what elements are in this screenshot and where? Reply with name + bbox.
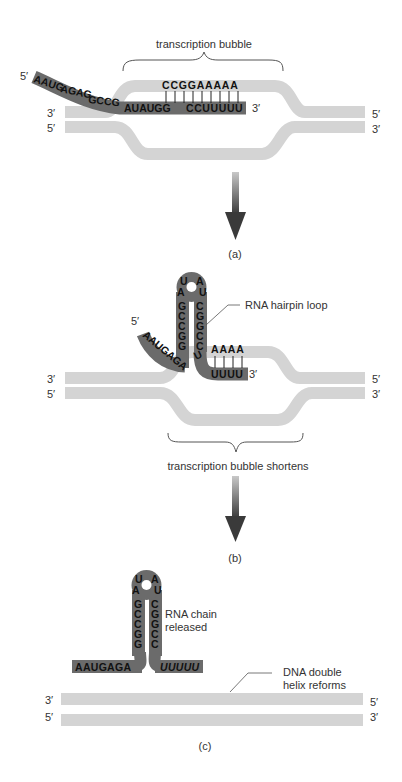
down-arrow-icon — [225, 172, 246, 240]
svg-text:G: G — [134, 638, 142, 650]
rna-3-bases: UUUU — [211, 368, 243, 380]
helix-label-line1: DNA double — [283, 666, 342, 678]
dna-coding-strand — [65, 127, 365, 154]
dna-template-strand — [61, 693, 363, 705]
loop-hole — [187, 282, 197, 292]
loop-hole — [142, 580, 152, 590]
dna-right-top-label: 5′ — [370, 696, 378, 708]
svg-text:G: G — [178, 340, 186, 352]
dna-left-bottom-label: 5′ — [47, 388, 55, 400]
transcription-termination-diagram: transcription bubble AAUG AGAG GCCG AUAU… — [0, 0, 402, 782]
rna-3-tail: UUUUU — [160, 661, 200, 673]
svg-text:A: A — [132, 584, 140, 596]
svg-text:C: C — [151, 638, 159, 650]
dna-right-top-label: 5′ — [372, 108, 380, 120]
stem-left: G C C G G — [134, 598, 142, 650]
rna-5prime-label: 5′ — [131, 315, 139, 327]
bubble-shortens-label: transcription bubble shortens — [167, 460, 309, 472]
dna-coding-strand — [61, 714, 363, 726]
dna-left-bottom-label: 5′ — [45, 711, 53, 723]
svg-text:U: U — [199, 286, 207, 298]
helix-label-line2: helix reforms — [283, 679, 346, 691]
svg-text:AUAUGG: AUAUGG — [124, 102, 171, 114]
bubble-brace — [168, 433, 303, 452]
down-arrow-icon — [225, 476, 246, 542]
hairpin-label: RNA hairpin loop — [245, 299, 328, 311]
dna-right-top-label: 5′ — [372, 373, 380, 385]
released-label-line1: RNA chain — [165, 608, 217, 620]
template-bases: AAAA — [211, 343, 245, 355]
rna-5prime-label: 5′ — [20, 70, 28, 82]
panel-a: transcription bubble AAUG AGAG GCCG AUAU… — [20, 38, 380, 260]
rna-3prime-label: 3′ — [249, 368, 257, 380]
helix-leader-line — [230, 673, 272, 692]
dna-right-bottom-label: 3′ — [370, 711, 378, 723]
caption-b: (b) — [228, 552, 241, 564]
rna-5-tail: AAUGAGA — [75, 661, 131, 673]
caption-a: (a) — [228, 248, 241, 260]
svg-text:CCUUUUU: CCUUUUU — [186, 102, 243, 114]
template-bases: CCGGAAAAA — [162, 79, 239, 91]
stem-right: C G G C C — [196, 300, 204, 352]
svg-text:U: U — [154, 584, 162, 596]
hairpin-leader-line — [206, 305, 240, 325]
svg-text:A: A — [177, 286, 185, 298]
dna-right-bottom-label: 3′ — [372, 388, 380, 400]
dna-coding-strand — [65, 393, 365, 420]
bubble-label: transcription bubble — [156, 38, 252, 50]
panel-c: U A A U G C C G G C G G C C AAUGAGA UUUU… — [45, 570, 378, 752]
bubble-brace — [123, 52, 283, 71]
dna-left-top-label: 3′ — [47, 373, 55, 385]
stem-left: G C C G G — [178, 300, 186, 352]
caption-c: (c) — [199, 740, 212, 752]
dna-left-top-label: 3′ — [45, 694, 53, 706]
released-label-line2: released — [165, 621, 207, 633]
panel-b: U A A U G C C G G C G G C C AAUGAGA U UU… — [47, 272, 380, 564]
dna-left-bottom-label: 5′ — [47, 122, 55, 134]
stem-right: C G G C C — [151, 598, 159, 650]
dna-right-bottom-label: 3′ — [372, 123, 380, 135]
dna-left-top-label: 3′ — [47, 107, 55, 119]
rna-3prime-label: 3′ — [252, 102, 260, 114]
